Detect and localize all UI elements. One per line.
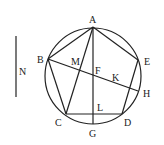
label-H: H <box>143 88 150 99</box>
label-M: M <box>71 56 80 67</box>
label-B: B <box>37 54 44 65</box>
segment-AB <box>48 27 93 59</box>
pentagon-diagram: A B M F K E H L C D G N <box>0 0 164 145</box>
label-A: A <box>89 14 97 25</box>
label-D: D <box>124 117 131 128</box>
label-L: L <box>97 102 103 113</box>
label-N: N <box>19 66 26 77</box>
label-G: G <box>89 128 96 139</box>
segment-BC <box>48 59 66 114</box>
label-C: C <box>55 117 62 128</box>
label-E: E <box>144 56 150 67</box>
label-K: K <box>112 72 120 83</box>
label-F: F <box>95 65 101 76</box>
segment-AE <box>93 27 138 60</box>
